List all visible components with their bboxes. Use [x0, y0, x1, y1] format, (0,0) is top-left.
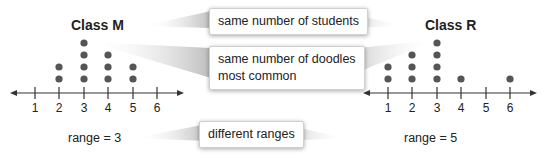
- callout-same-doodles: same number of doodles most common: [209, 46, 365, 90]
- callout-text: same number of students: [218, 14, 359, 28]
- class-m-title: Class M: [71, 17, 124, 33]
- callout-different-ranges: different ranges: [199, 121, 304, 148]
- tick-label: 5: [126, 101, 140, 115]
- callout-text: different ranges: [208, 127, 295, 141]
- tick-label: 3: [430, 101, 444, 115]
- class-r-number-line: [363, 87, 537, 99]
- tick-label: 3: [77, 101, 91, 115]
- tick-label: 6: [503, 101, 517, 115]
- class-r-range: range = 5: [404, 131, 457, 145]
- tick-label: 4: [101, 101, 115, 115]
- tick-label: 4: [454, 101, 468, 115]
- class-m-range: range = 3: [68, 131, 121, 145]
- tick-label: 2: [405, 101, 419, 115]
- callout-text: same number of doodles: [218, 51, 356, 68]
- class-r-title: Class R: [425, 17, 476, 33]
- tick-label: 5: [479, 101, 493, 115]
- tick-label: 1: [381, 101, 395, 115]
- tick-label: 2: [52, 101, 66, 115]
- tick-label: 1: [28, 101, 42, 115]
- callout-text: most common: [218, 68, 356, 85]
- callout-same-students: same number of students: [209, 8, 368, 35]
- tick-label: 6: [150, 101, 164, 115]
- class-m-number-line: [10, 87, 184, 99]
